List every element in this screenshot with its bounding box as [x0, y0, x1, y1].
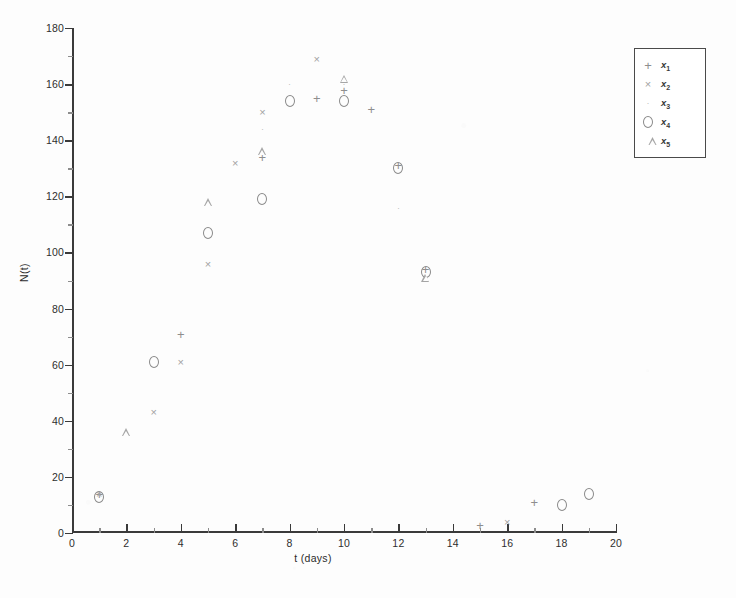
y-tick-label: 60: [24, 359, 64, 371]
chart-page: 020406080100120140160180 024681012141618…: [0, 0, 736, 598]
data-point-x4: [393, 162, 403, 174]
legend-marker-cross-icon: ×: [635, 77, 661, 91]
data-point-triangle: [649, 137, 657, 145]
x-tick-label: 0: [52, 537, 92, 549]
y-tick-label: 180: [24, 22, 64, 34]
legend-label: x4: [661, 116, 670, 129]
data-point-x4: [94, 491, 104, 503]
data-point-x2: ×: [259, 107, 265, 118]
y-tick: [65, 421, 73, 422]
y-tick: [68, 224, 73, 225]
x-axis-label: t (days): [0, 552, 736, 564]
y-tick-label: 20: [24, 471, 64, 483]
y-tick: [68, 393, 73, 394]
data-point-x1: +: [476, 518, 484, 531]
data-point-x4: [203, 227, 213, 239]
y-tick-label: 160: [24, 78, 64, 90]
legend-item-x2[interactable]: ×x2: [635, 74, 705, 94]
legend-marker-triangle-icon: [635, 134, 661, 148]
y-tick: [65, 477, 73, 478]
data-point-x5: [122, 428, 130, 436]
data-point-x5: [340, 75, 348, 83]
x-tick: [290, 524, 291, 533]
y-tick: [68, 112, 73, 113]
x-tick: [371, 528, 372, 533]
data-point-x4: [339, 95, 349, 107]
data-point-x4: [584, 488, 594, 500]
data-point-circle: [643, 116, 653, 128]
data-point-x2: ×: [150, 407, 156, 418]
legend-label: x5: [661, 135, 670, 148]
y-tick-label: 100: [24, 246, 64, 258]
legend-marker-plus-icon: +: [635, 58, 661, 72]
y-tick-label: 80: [24, 303, 64, 315]
x-tick: [616, 524, 617, 533]
legend-item-x4[interactable]: x4: [635, 112, 705, 132]
x-tick-label: 2: [106, 537, 146, 549]
data-point-x3: ·: [397, 203, 400, 212]
x-tick: [208, 528, 209, 533]
legend-item-x5[interactable]: x5: [635, 131, 705, 151]
y-tick: [65, 140, 73, 141]
y-tick: [65, 309, 73, 310]
data-point-x5: [258, 147, 266, 155]
data-point-x4: [285, 95, 295, 107]
y-tick: [65, 252, 73, 253]
x-tick: [317, 528, 318, 533]
legend-marker-circle-icon: [635, 115, 661, 129]
x-tick: [562, 524, 563, 533]
legend: +x1×x2·x3x4x5: [634, 48, 706, 158]
y-tick: [65, 84, 73, 85]
x-tick: [426, 528, 427, 533]
x-tick-label: 20: [596, 537, 636, 549]
data-point-x1: +: [531, 496, 539, 509]
y-tick-label: 140: [24, 134, 64, 146]
x-tick-label: 6: [215, 537, 255, 549]
data-point-x3: ·: [261, 125, 264, 134]
x-axis-label-text: t (days): [294, 552, 331, 564]
x-tick: [235, 524, 236, 533]
data-point-plus: +: [644, 59, 652, 72]
y-tick-label: 120: [24, 190, 64, 202]
x-tick-label: 14: [433, 537, 473, 549]
legend-item-x1[interactable]: +x1: [635, 55, 705, 75]
data-point-x4: [557, 499, 567, 511]
x-tick: [154, 528, 155, 533]
data-point-x3: ·: [288, 80, 291, 89]
x-tick: [99, 528, 100, 533]
legend-label: x1: [661, 59, 670, 72]
data-point-x4: [149, 356, 159, 368]
data-point-x2: ×: [232, 157, 238, 168]
x-tick-label: 8: [270, 537, 310, 549]
y-axis-label: N(t): [18, 263, 30, 282]
x-tick: [398, 524, 399, 533]
data-point-dot: ·: [647, 99, 650, 108]
y-tick: [65, 196, 73, 197]
x-tick: [534, 528, 535, 533]
y-tick: [68, 505, 73, 506]
data-point-x4: [257, 193, 267, 205]
x-tick: [262, 528, 263, 533]
x-tick: [126, 524, 127, 533]
y-tick: [65, 365, 73, 366]
data-point-x1: +: [313, 92, 321, 105]
x-tick: [72, 524, 73, 533]
x-tick-label: 4: [161, 537, 201, 549]
legend-item-x3[interactable]: ·x3: [635, 93, 705, 113]
data-point-x2: ×: [205, 258, 211, 269]
y-tick: [65, 533, 73, 534]
data-point-x2: ×: [504, 516, 510, 527]
data-point-x5: [422, 274, 430, 282]
y-tick: [68, 281, 73, 282]
data-point-cross: ×: [645, 79, 651, 90]
y-tick: [68, 168, 73, 169]
y-tick: [65, 28, 73, 29]
y-tick: [68, 449, 73, 450]
legend-label: x3: [661, 97, 670, 110]
data-point-x1: +: [367, 103, 375, 116]
data-point-x2: ×: [178, 356, 184, 367]
x-tick: [344, 524, 345, 533]
y-tick-label: 40: [24, 415, 64, 427]
x-tick-label: 18: [542, 537, 582, 549]
x-tick: [181, 524, 182, 533]
